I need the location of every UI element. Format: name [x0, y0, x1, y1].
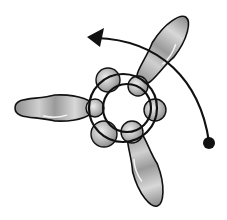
thread-start-dot: [203, 137, 215, 149]
round-beads: [86, 68, 166, 147]
round-bead: [96, 68, 120, 92]
round-bead: [91, 121, 117, 147]
diagram-canvas: [0, 0, 227, 220]
arrowhead-icon: [87, 28, 104, 47]
beading-diagram: [0, 0, 227, 220]
left-petal-bead: [15, 95, 95, 121]
petal-beads: [15, 10, 197, 210]
